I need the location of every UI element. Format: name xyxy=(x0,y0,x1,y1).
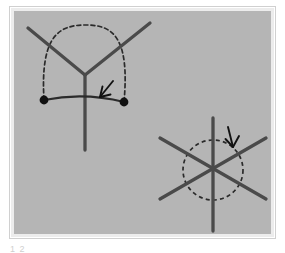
gray-panel xyxy=(14,11,271,234)
clipped-caption: 1 2 xyxy=(10,244,26,253)
left-endpoint-dot xyxy=(40,96,49,105)
right-endpoint-dot xyxy=(120,98,129,107)
